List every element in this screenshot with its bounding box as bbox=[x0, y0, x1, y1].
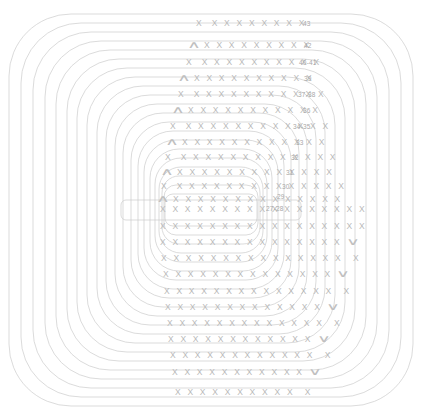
row-glyph-sequence: X X X X X X X X X X bbox=[194, 73, 314, 83]
glyph-row: X X X X X X X X X X X X X X X X X bbox=[160, 221, 367, 231]
row-trail-glyph: X bbox=[305, 387, 311, 397]
ring-year-label: 39 bbox=[304, 75, 312, 82]
caret-down-icon: ∨ bbox=[308, 367, 321, 377]
row-glyph-sequence: X X X X X X X X X X X bbox=[172, 367, 304, 377]
caret-up-icon: ∧ bbox=[187, 40, 200, 50]
row-glyph-sequence: X X X X X X X X X X X X X X bbox=[177, 181, 346, 191]
row-glyph-sequence: X X X X X X X X X X X X bbox=[170, 350, 315, 360]
row-glyph-sequence: X X X X X X X X X X X X X X X bbox=[160, 237, 342, 247]
caret-up-icon: ∧ bbox=[171, 105, 184, 115]
ring-year-label: 36 bbox=[303, 107, 311, 114]
row-lead-glyph: X bbox=[170, 121, 176, 131]
row-glyph-sequence: X X X X X X X X X X bbox=[175, 387, 295, 397]
row-glyph-sequence: X X X X X X X X X X X X X X bbox=[164, 286, 333, 296]
glyph-row: X X X X X X X X X XX bbox=[175, 387, 310, 397]
row-trail-glyph: X bbox=[353, 253, 359, 263]
row-glyph-sequence: X X X X X X X X X X X X bbox=[168, 334, 313, 344]
row-glyph-sequence: X X X X X X X X X X X X X X bbox=[173, 194, 342, 204]
caret-up-icon: ∧ bbox=[160, 167, 173, 177]
row-glyph-sequence: X X X X X X X X X X X X bbox=[182, 137, 327, 147]
ring-year-label: 33 bbox=[296, 139, 304, 146]
ring-year-label: 40-41 bbox=[299, 59, 317, 66]
glyph-row: ∧X X X X X X X X X X X bbox=[174, 105, 320, 115]
ring-year-label: 29 bbox=[277, 193, 285, 200]
caret-up-icon: ∧ bbox=[165, 137, 178, 147]
row-lead-glyph: X bbox=[161, 181, 167, 191]
row-glyph-sequence: X X X X X X X X X X X X X X X bbox=[161, 253, 343, 263]
glyph-row: ∧X X X X X X X X X X X X X bbox=[163, 167, 334, 177]
row-glyph-sequence: X X X X X X X X X X X X X bbox=[167, 318, 324, 328]
ring-year-label: 32 bbox=[291, 154, 299, 161]
glyph-row: ∧X X X X X X X X X X bbox=[180, 73, 314, 83]
caret-up-icon: ∧ bbox=[177, 73, 190, 83]
ring-year-label: 27-28 bbox=[266, 205, 284, 212]
row-lead-glyph: X bbox=[196, 18, 202, 28]
caret-up-icon: ∧ bbox=[156, 194, 169, 204]
row-lead-glyph: X bbox=[186, 57, 192, 67]
glyph-row: X X X X X X X X X X X X X∨ bbox=[165, 302, 336, 312]
glyph-row: X X X X X X X X X X X∨ bbox=[172, 367, 318, 377]
ring-year-label: 37-38 bbox=[298, 91, 316, 98]
row-lead-glyph: X bbox=[165, 152, 171, 162]
row-glyph-sequence: X X X X X X X X X X X X X X X X X bbox=[160, 221, 367, 231]
glyph-row: X X X X X X X X X X X X XX bbox=[167, 318, 340, 328]
glyph-row: X X X X X X X X X X X X X X∨ bbox=[163, 269, 346, 279]
ring-year-label: 31 bbox=[286, 169, 294, 176]
glyph-row: X X X X X X X X X X X X X XX bbox=[164, 286, 349, 296]
glyph-row: ∧X X X X X X X X X X X X X X bbox=[159, 194, 342, 204]
row-trail-glyph: X bbox=[334, 318, 340, 328]
row-trail-glyph: X bbox=[325, 350, 331, 360]
glyph-row: XX X X X X X X X X X X X X bbox=[165, 152, 338, 162]
row-glyph-sequence: X X X X X X X X X X X X X bbox=[177, 167, 334, 177]
caret-down-icon: ∨ bbox=[326, 302, 339, 312]
row-trail-glyph: X bbox=[343, 286, 349, 296]
caret-down-icon: ∨ bbox=[346, 237, 359, 247]
row-glyph-sequence: X X X X X X X X bbox=[212, 18, 307, 28]
row-glyph-sequence: X X X X X X X X X bbox=[204, 40, 311, 50]
row-glyph-sequence: X X X X X X X X X X X bbox=[188, 105, 320, 115]
row-glyph-sequence: X X X X X X X X X X X X X X X X X bbox=[160, 204, 367, 214]
glyph-row: X X X X X X X X X X X X∨ bbox=[168, 334, 327, 344]
caret-down-icon: ∨ bbox=[336, 269, 349, 279]
glyph-row: XX X X X X X X X X X X X X X bbox=[161, 181, 346, 191]
row-glyph-sequence: X X X X X X X X X X X X X bbox=[181, 152, 338, 162]
glyph-row: X X X X X X X X X X X X X X XX bbox=[161, 253, 359, 263]
glyph-row: XX X X X X X X X bbox=[196, 18, 307, 28]
ring-diagram-canvas: XX X X X X X X X∧X X X X X X X X XXX X X… bbox=[0, 0, 423, 418]
ring-year-label: 30 bbox=[282, 183, 290, 190]
glyph-row: ∧X X X X X X X X X bbox=[190, 40, 311, 50]
glyph-row: X X X X X X X X X X X X X X X X X bbox=[160, 204, 367, 214]
caret-down-icon: ∨ bbox=[316, 334, 329, 344]
ring-year-label: 43 bbox=[303, 20, 311, 27]
ring-year-label: 42 bbox=[304, 42, 312, 49]
row-glyph-sequence: X X X X X X X X X X X X X X bbox=[163, 269, 332, 279]
row-glyph-sequence: X X X X X X X X X X X X X bbox=[165, 302, 322, 312]
ring-year-label: 34-35 bbox=[293, 123, 311, 130]
glyph-row: X X X X X X X X X X X X X X X∨ bbox=[160, 237, 356, 247]
glyph-row: X X X X X X X X X X X XX bbox=[170, 350, 330, 360]
row-lead-glyph: X bbox=[178, 89, 184, 99]
